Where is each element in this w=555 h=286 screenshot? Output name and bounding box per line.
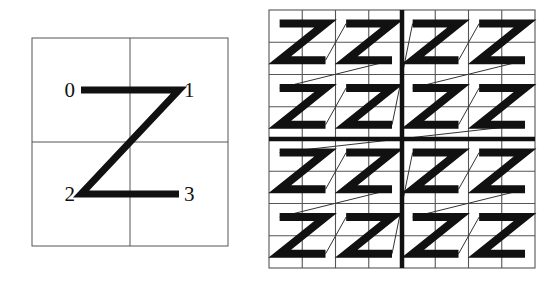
left-panel-order-label-1: 1	[184, 78, 195, 102]
figure-root: 0123	[0, 0, 555, 286]
recursive-z-order-panel	[255, 0, 555, 286]
left-panel-order-label-3: 3	[184, 182, 195, 206]
left-panel-order-label-0: 0	[65, 78, 76, 102]
left-panel-order-label-2: 2	[65, 182, 76, 206]
basic-z-order-panel: 0123	[0, 0, 255, 286]
